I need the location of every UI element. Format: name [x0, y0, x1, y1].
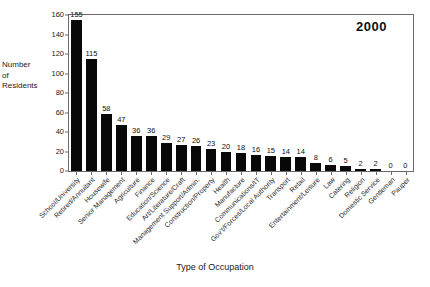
y-tick-label: 100 — [51, 70, 64, 78]
bar-slot: 36 — [129, 15, 144, 171]
y-tick-label: 140 — [51, 31, 64, 39]
bar-slot: 155 — [69, 15, 84, 171]
bar-value-label: 58 — [102, 105, 110, 113]
bar-chart: Number of Residents 02040608010012014016… — [0, 0, 430, 287]
bar-slot: 6 — [323, 15, 338, 171]
bar-wrapper: 155 — [69, 20, 84, 171]
bar-value-label: 16 — [252, 146, 260, 154]
bar-value-label: 115 — [85, 50, 97, 58]
bar — [86, 59, 97, 171]
bar-slot: 115 — [84, 15, 99, 171]
bar-slot: 0 — [383, 15, 398, 171]
bar-value-label: 155 — [70, 11, 83, 19]
bar-slot: 27 — [174, 15, 189, 171]
bar-slot: 29 — [159, 15, 174, 171]
bar — [71, 20, 82, 171]
bar-value-label: 36 — [147, 127, 155, 135]
bar-slot: 2 — [368, 15, 383, 171]
y-tick-label: 60 — [56, 109, 64, 117]
y-tick-label: 160 — [51, 11, 64, 19]
x-axis-title: Type of Occupation — [0, 262, 430, 272]
y-tick-label: 80 — [56, 89, 64, 97]
bar-value-label: 47 — [117, 116, 125, 124]
y-tick-label: 120 — [51, 50, 64, 58]
bar-slot: 15 — [263, 15, 278, 171]
bar-value-label: 8 — [314, 154, 318, 162]
bar-value-label: 27 — [177, 136, 185, 144]
y-tick-label: 40 — [56, 128, 64, 136]
y-axis: 020406080100120140160 — [0, 0, 68, 173]
bar-value-label: 36 — [132, 127, 140, 135]
y-tick-label: 20 — [56, 148, 64, 156]
y-tick-label: 0 — [60, 167, 64, 175]
